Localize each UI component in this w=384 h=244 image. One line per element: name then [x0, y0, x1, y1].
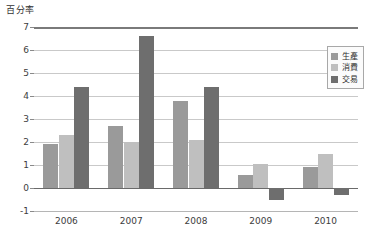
- y-tick-label-1: 1: [23, 160, 29, 170]
- bar-2008-消費[interactable]: [189, 140, 204, 188]
- y-tick-label-3: 3: [23, 114, 29, 124]
- y-tick-label-7: 7: [23, 22, 29, 32]
- y-axis-title: 百分率: [6, 4, 35, 16]
- plot-area: 76543210-1: [34, 27, 358, 211]
- bar-2008-生產[interactable]: [173, 101, 188, 188]
- legend-swatch-consumption: [331, 64, 338, 71]
- legend-item-consumption[interactable]: 消費: [331, 62, 359, 73]
- bar-2006-生產[interactable]: [43, 144, 58, 188]
- y-tick-mark-1: [30, 165, 34, 166]
- bar-2007-生產[interactable]: [108, 126, 123, 188]
- bar-2010-消費[interactable]: [318, 154, 333, 189]
- y-tick-label-0: 0: [23, 183, 29, 193]
- y-tick-mark-4: [30, 96, 34, 97]
- legend-item-trade[interactable]: 交易: [331, 74, 359, 85]
- y-tick-mark--1: [30, 211, 34, 212]
- bar-2007-交易[interactable]: [139, 36, 154, 188]
- y-tick-mark-5: [30, 73, 34, 74]
- y-tick-label-4: 4: [23, 91, 29, 101]
- legend-label-consumption: 消費: [342, 63, 359, 72]
- x-axis-label-2008: 2008: [185, 216, 208, 226]
- x-axis-label-2010: 2010: [314, 216, 337, 226]
- bar-group-2009: [238, 27, 284, 211]
- y-tick-mark-0: [30, 188, 34, 189]
- bar-chart: 百分率 76543210-1 20062007200820092010 生產 消…: [0, 0, 384, 244]
- y-tick-mark-3: [30, 119, 34, 120]
- legend-label-trade: 交易: [342, 75, 359, 84]
- legend-label-production: 生產: [342, 52, 359, 61]
- y-tick-label-6: 6: [23, 45, 29, 55]
- gridline--1: -1: [34, 211, 358, 212]
- bar-2009-消費[interactable]: [253, 164, 268, 188]
- bar-2008-交易[interactable]: [204, 87, 219, 188]
- y-tick-label-2: 2: [23, 137, 29, 147]
- legend: 生產 消費 交易: [327, 46, 364, 89]
- x-axis-label-2006: 2006: [55, 216, 78, 226]
- y-tick-mark-2: [30, 142, 34, 143]
- bar-group-2008: [173, 27, 219, 211]
- bar-group-2007: [108, 27, 154, 211]
- bar-2007-消費[interactable]: [124, 142, 139, 188]
- bar-2006-交易[interactable]: [74, 87, 89, 188]
- y-tick-label-5: 5: [23, 68, 29, 78]
- bar-2006-消費[interactable]: [59, 135, 74, 188]
- legend-item-production[interactable]: 生產: [331, 51, 359, 62]
- y-tick-mark-7: [30, 27, 34, 28]
- bar-2010-交易[interactable]: [334, 188, 349, 195]
- x-axis-label-2009: 2009: [249, 216, 272, 226]
- bar-2009-交易[interactable]: [269, 188, 284, 200]
- y-tick-mark-6: [30, 50, 34, 51]
- bar-group-2006: [43, 27, 89, 211]
- legend-swatch-trade: [331, 76, 338, 83]
- x-axis-label-2007: 2007: [120, 216, 143, 226]
- bar-2009-生產[interactable]: [238, 175, 253, 188]
- y-tick-label--1: -1: [20, 206, 29, 216]
- legend-swatch-production: [331, 53, 338, 60]
- bar-2010-生產[interactable]: [303, 167, 318, 188]
